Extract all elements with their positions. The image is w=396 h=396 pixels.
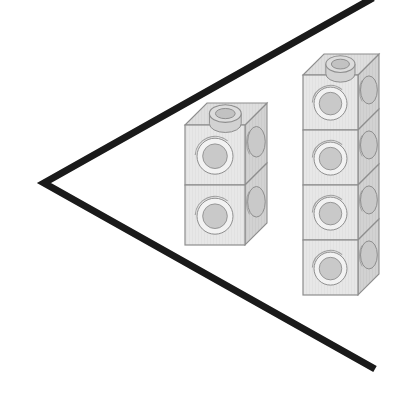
comparison-illustration-canvas: 2 < 4 2 is less than 4 2 4 Math comparis…	[0, 0, 396, 396]
snap-cube	[303, 54, 379, 130]
cube-side-recess	[361, 131, 378, 159]
cube-front-recess-hole	[319, 202, 342, 225]
cube-front-recess-hole	[319, 92, 342, 115]
left-tower	[185, 103, 267, 245]
cube-front-recess-hole	[203, 204, 228, 229]
cube-side-recess	[361, 186, 378, 214]
scene-svg	[0, 0, 396, 396]
cube-front-recess-hole	[319, 257, 342, 280]
cube-side-recess	[361, 76, 378, 104]
cube-side-recess	[248, 126, 266, 157]
cube-side-recess	[361, 241, 378, 269]
cube-stud-hole	[215, 108, 235, 118]
snap-cube	[185, 103, 267, 185]
cube-front-recess-hole	[319, 147, 342, 170]
cube-stud-hole	[331, 59, 349, 69]
cube-front-recess-hole	[203, 144, 228, 169]
right-tower	[303, 54, 379, 295]
cube-side-recess	[248, 186, 266, 217]
